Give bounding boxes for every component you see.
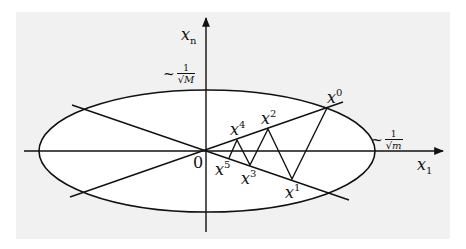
xn-axis-label: xn [181,27,196,46]
origin-label: 0 [193,155,203,171]
iterate-label-x5: x5 [215,161,230,178]
iterate-label-x0: x0 [327,89,342,106]
minor-axis-scale-annotation: ~ 1 √M [163,63,195,85]
iterate-label-x4: x4 [230,121,245,138]
iterate-label-x3: x3 [241,170,256,187]
iterate-label-x2: x2 [261,110,276,127]
major-axis-scale-annotation: ~ 1 √m [371,129,403,151]
iterate-label-x1: x1 [285,184,300,201]
x1-axis-label: x1 [417,157,432,176]
